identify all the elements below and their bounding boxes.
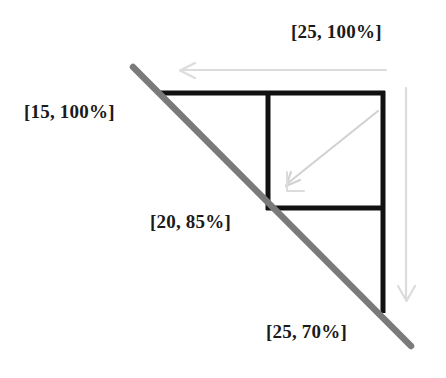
label-top-right: [25, 100%] — [291, 22, 382, 41]
label-left: [15, 100%] — [24, 102, 115, 121]
diagram-graphics — [0, 0, 446, 378]
label-bottom: [25, 70%] — [266, 322, 347, 341]
horizontal-reduction-arrow — [180, 63, 386, 78]
diagonal-improvement-arrow — [286, 111, 378, 191]
label-middle: [20, 85%] — [150, 212, 231, 231]
diagram-canvas: [25, 100%] [15, 100%] [20, 85%] [25, 70%… — [0, 0, 446, 378]
vertical-reduction-arrow — [398, 88, 415, 301]
